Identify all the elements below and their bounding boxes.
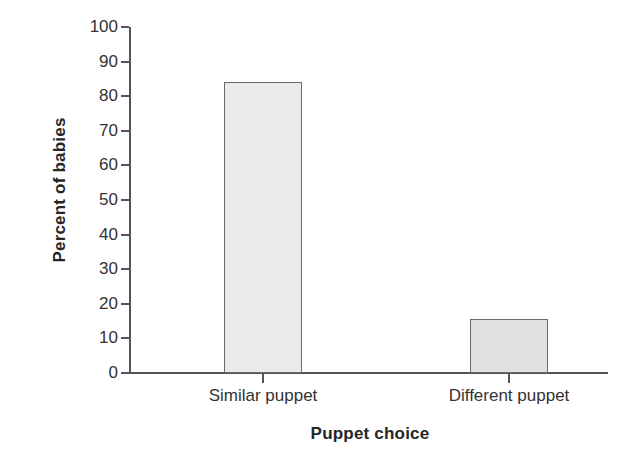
y-axis-tick-label: 70 bbox=[72, 122, 118, 139]
y-axis-tick bbox=[121, 199, 129, 201]
x-axis-tick bbox=[262, 374, 264, 383]
y-axis-tick bbox=[121, 164, 129, 166]
y-axis-tick bbox=[121, 95, 129, 97]
x-axis-tick bbox=[508, 374, 510, 383]
y-axis-tick bbox=[121, 337, 129, 339]
y-axis-tick-label: 60 bbox=[72, 156, 118, 173]
bar-chart-figure: Percent of babies 1009080706050403020100… bbox=[0, 0, 630, 465]
y-axis-tick-label: 100 bbox=[72, 18, 118, 35]
y-axis-tick-labels: 1009080706050403020100 bbox=[66, 0, 118, 465]
y-axis-tick bbox=[121, 303, 129, 305]
y-axis-tick-label: 30 bbox=[72, 260, 118, 277]
y-axis-tick bbox=[121, 61, 129, 63]
y-axis-tick bbox=[121, 130, 129, 132]
x-axis-category-label: Different puppet bbox=[399, 386, 619, 406]
y-axis-tick-label: 90 bbox=[72, 53, 118, 70]
y-axis-tick bbox=[121, 268, 129, 270]
y-axis-tick-label: 20 bbox=[72, 295, 118, 312]
y-axis-tick bbox=[121, 26, 129, 28]
x-axis-title: Puppet choice bbox=[0, 424, 630, 444]
bar bbox=[470, 319, 548, 373]
x-axis-category-label: Similar puppet bbox=[153, 386, 373, 406]
y-axis-tick bbox=[121, 372, 129, 374]
y-axis-tick-label: 10 bbox=[72, 329, 118, 346]
y-axis-tick-label: 0 bbox=[72, 364, 118, 381]
y-axis-tick-label: 80 bbox=[72, 87, 118, 104]
bar bbox=[224, 82, 302, 373]
plot-area bbox=[130, 27, 608, 373]
y-axis-tick-label: 50 bbox=[72, 191, 118, 208]
y-axis-tick bbox=[121, 234, 129, 236]
y-axis-tick-label: 40 bbox=[72, 226, 118, 243]
